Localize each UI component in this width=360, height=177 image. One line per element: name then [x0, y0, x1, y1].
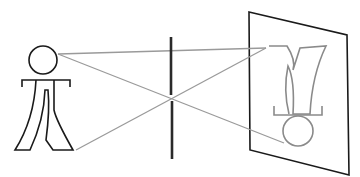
- ray-head-to-image: [58, 48, 266, 54]
- figure-arms: [22, 80, 70, 87]
- diagram-canvas: [0, 0, 360, 177]
- screen: [249, 12, 349, 175]
- inverted-image: [269, 46, 326, 146]
- figure-head: [29, 46, 57, 74]
- object-figure: [15, 46, 73, 150]
- image-head: [283, 116, 313, 146]
- image-legs: [269, 46, 326, 114]
- pinhole-camera-diagram: [0, 0, 360, 177]
- figure-body: [15, 80, 73, 150]
